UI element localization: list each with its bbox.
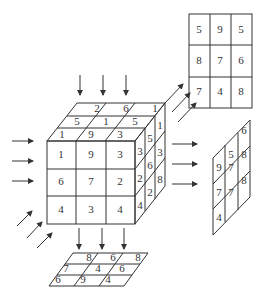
top-arrows <box>80 75 126 95</box>
top-cell: 1 <box>103 115 109 127</box>
right-cell: 5 <box>147 132 153 144</box>
back-cell: 7 <box>196 85 202 97</box>
back-cell: 5 <box>196 23 202 35</box>
side-cell: 5 <box>228 148 234 160</box>
top-cell: 5 <box>74 115 80 127</box>
right-cell: 6 <box>147 159 153 171</box>
right-arrows <box>172 144 197 184</box>
back-cell: 7 <box>217 54 223 66</box>
front-cell: 9 <box>88 148 94 160</box>
back-face-projection: 5 9 5 8 7 6 7 4 8 <box>189 14 252 108</box>
right-cell: 2 <box>137 172 143 184</box>
right-cell: 3 <box>137 145 143 157</box>
top-cell: 2 <box>94 102 100 114</box>
side-cell: 8 <box>241 148 247 160</box>
front-cell: 3 <box>117 148 123 160</box>
top-cell: 1 <box>152 102 158 114</box>
top-cell: 5 <box>132 115 138 127</box>
front-cell: 3 <box>88 203 94 215</box>
bottom-cell: 6 <box>110 251 116 263</box>
right-cell: 8 <box>157 173 163 185</box>
bottom-arrows <box>79 228 124 249</box>
right-cell: 1 <box>157 119 163 131</box>
side-cell: 9 <box>216 161 222 173</box>
cube-front-face: 1 9 3 6 7 2 4 3 4 <box>47 141 135 224</box>
side-cell: 7 <box>228 186 234 198</box>
back-cell: 9 <box>217 23 223 35</box>
top-cell: 9 <box>88 128 94 140</box>
top-cell: 6 <box>123 102 129 114</box>
bottom-cell: 4 <box>105 273 111 285</box>
bottom-projection: 8 6 8 7 4 6 6 9 4 <box>49 251 148 286</box>
back-cell: 8 <box>238 85 244 97</box>
back-cell: 8 <box>196 54 202 66</box>
side-cell: 7 <box>216 186 222 198</box>
front-cell: 4 <box>117 203 123 215</box>
side-cell: 4 <box>216 211 222 223</box>
cube-diagram: 5 9 5 8 7 6 7 4 8 2 6 <box>0 0 256 294</box>
bottom-cell: 4 <box>95 262 101 274</box>
back-cell: 6 <box>238 54 244 66</box>
left-arrows <box>12 141 33 181</box>
front-cell: 6 <box>58 175 64 187</box>
bottom-cell: 6 <box>55 273 61 285</box>
side-cell: 8 <box>241 174 247 186</box>
diagonal-arrows-top <box>165 84 196 122</box>
back-cell: 4 <box>217 85 223 97</box>
right-cell: 2 <box>147 186 153 198</box>
front-cell: 2 <box>117 175 123 187</box>
bottom-cell: 8 <box>86 251 92 263</box>
bottom-cell: 9 <box>80 273 86 285</box>
top-cell: 3 <box>117 128 123 140</box>
side-cell: 7 <box>228 161 234 173</box>
right-cell: 3 <box>157 146 163 158</box>
top-cell: 1 <box>59 128 65 140</box>
bottom-cell: 7 <box>63 262 69 274</box>
front-cell: 1 <box>58 148 64 160</box>
bottom-cell: 8 <box>135 251 141 263</box>
right-side-projection: 9 5 6 7 7 8 4 7 8 <box>213 120 250 235</box>
side-cell: 6 <box>241 124 247 136</box>
right-cell: 4 <box>137 199 143 211</box>
front-cell: 7 <box>88 175 94 187</box>
back-cell: 5 <box>238 23 244 35</box>
front-cell: 4 <box>58 203 64 215</box>
cube-right-face: 3 5 1 2 6 3 4 2 8 <box>135 103 165 224</box>
bottom-cell: 6 <box>119 262 125 274</box>
